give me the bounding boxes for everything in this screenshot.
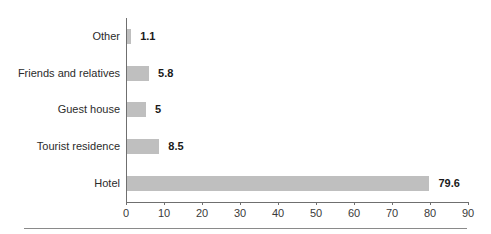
bar bbox=[127, 102, 146, 117]
x-axis-tick-label: 50 bbox=[301, 206, 331, 220]
x-axis-tick-label: 10 bbox=[149, 206, 179, 220]
x-axis-tick bbox=[126, 202, 127, 205]
x-axis-tick-label: 40 bbox=[263, 206, 293, 220]
bar-category-label: Hotel bbox=[0, 177, 120, 190]
bar-and-value: 5.8 bbox=[127, 66, 173, 81]
x-axis-tick bbox=[202, 202, 203, 205]
x-axis-tick bbox=[164, 202, 165, 205]
x-axis-tick bbox=[430, 202, 431, 205]
x-axis-tick-label: 0 bbox=[111, 206, 141, 220]
x-axis-tick bbox=[278, 202, 279, 205]
bar-row: Guest house5 bbox=[0, 92, 491, 129]
bar-row: Tourist residence8.5 bbox=[0, 128, 491, 165]
bar-category-label: Other bbox=[0, 30, 120, 43]
bar bbox=[127, 139, 159, 154]
bar bbox=[127, 66, 149, 81]
bar-value-label: 79.6 bbox=[438, 177, 459, 190]
bottom-rule bbox=[24, 228, 467, 229]
bar-category-label: Friends and relatives bbox=[0, 67, 120, 80]
x-axis-tick-label: 30 bbox=[225, 206, 255, 220]
x-axis-tick bbox=[240, 202, 241, 205]
bar-chart: Other1.1Friends and relatives5.8Guest ho… bbox=[0, 0, 491, 234]
bar-and-value: 79.6 bbox=[127, 176, 460, 191]
bar-value-label: 5.8 bbox=[158, 67, 173, 80]
x-axis-tick-label: 80 bbox=[415, 206, 445, 220]
bar bbox=[127, 176, 429, 191]
x-axis-tick-label: 70 bbox=[377, 206, 407, 220]
x-axis-tick bbox=[354, 202, 355, 205]
bar-value-label: 1.1 bbox=[140, 30, 155, 43]
bar bbox=[127, 29, 131, 44]
bar-and-value: 5 bbox=[127, 102, 161, 117]
x-axis-tick bbox=[392, 202, 393, 205]
bar-and-value: 8.5 bbox=[127, 139, 184, 154]
x-axis-tick bbox=[316, 202, 317, 205]
x-axis-tick-label: 60 bbox=[339, 206, 369, 220]
bar-value-label: 5 bbox=[155, 103, 161, 116]
bar-row: Hotel79.6 bbox=[0, 165, 491, 202]
x-axis-tick bbox=[468, 202, 469, 205]
x-axis-tick-label: 20 bbox=[187, 206, 217, 220]
bar-value-label: 8.5 bbox=[168, 140, 183, 153]
x-axis-tick-label: 90 bbox=[453, 206, 483, 220]
bar-row: Other1.1 bbox=[0, 18, 491, 55]
bar-and-value: 1.1 bbox=[127, 29, 155, 44]
bar-category-label: Guest house bbox=[0, 103, 120, 116]
bar-category-label: Tourist residence bbox=[0, 140, 120, 153]
bar-row: Friends and relatives5.8 bbox=[0, 55, 491, 92]
category-axis-line bbox=[126, 202, 468, 203]
